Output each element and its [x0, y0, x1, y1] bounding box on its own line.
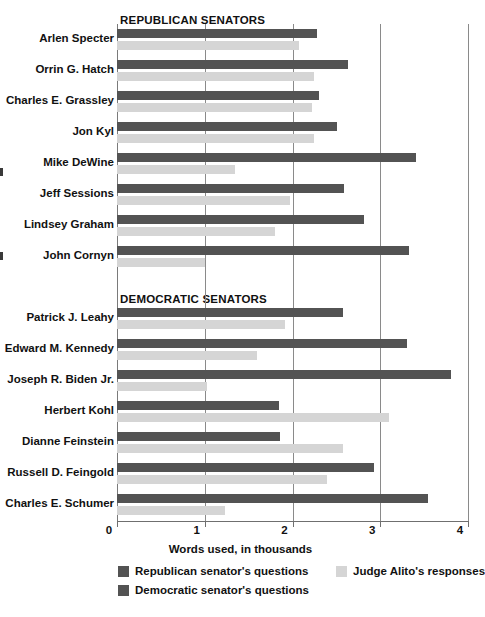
bar-row: Dianne Feinstein	[0, 429, 481, 460]
bar-alito-responses	[117, 382, 207, 391]
bar-row: Lindsey Graham	[0, 212, 481, 243]
x-tick-label-4: 4	[457, 524, 463, 536]
legend-label-republican: Republican senator's questions	[135, 565, 308, 577]
bar-senator-questions	[117, 432, 280, 441]
x-tick-mark-4	[468, 521, 469, 527]
legend-item-democratic-questions: Democratic senator's questions	[118, 584, 309, 596]
bar-row: Charles E. Schumer	[0, 491, 481, 522]
legend: Republican senator's questions Democrati…	[0, 563, 481, 613]
x-tick-mark-0	[117, 521, 118, 527]
bar-senator-questions	[117, 463, 374, 472]
bar-alito-responses	[117, 444, 343, 453]
bar-senator-questions	[117, 494, 428, 503]
bar-alito-responses	[117, 72, 314, 81]
bar-senator-questions	[117, 215, 364, 224]
senator-name-label: Arlen Specter	[39, 32, 114, 44]
x-tick-mark-2	[293, 521, 294, 527]
bar-row: Herbert Kohl	[0, 398, 481, 429]
bar-row: Charles E. Grassley	[0, 88, 481, 119]
x-tick-mark-3	[380, 521, 381, 527]
bar-row: Jon Kyl	[0, 119, 481, 150]
senator-name-label: Lindsey Graham	[24, 218, 114, 230]
senator-name-label: Joseph R. Biden Jr.	[7, 373, 114, 385]
senator-name-label: Russell D. Feingold	[7, 466, 114, 478]
bar-senator-questions	[117, 339, 407, 348]
senator-name-label: Jon Kyl	[72, 125, 114, 137]
x-tick-label-0: 0	[106, 524, 112, 536]
bar-row: Edward M. Kennedy	[0, 336, 481, 367]
bar-row: Jeff Sessions	[0, 181, 481, 212]
bar-senator-questions	[117, 153, 416, 162]
senator-name-label: Jeff Sessions	[40, 187, 114, 199]
senator-name-label: Edward M. Kennedy	[5, 342, 114, 354]
bar-row: Arlen Specter	[0, 26, 481, 57]
senator-name-label: John Cornyn	[43, 249, 114, 261]
bar-row: Patrick J. Leahy	[0, 305, 481, 336]
bar-alito-responses	[117, 227, 275, 236]
bar-alito-responses	[117, 103, 312, 112]
x-tick-label-2: 2	[281, 524, 287, 536]
bar-senator-questions	[117, 401, 279, 410]
bar-row: John Cornyn	[0, 243, 481, 274]
bar-alito-responses	[117, 258, 205, 267]
senator-name-label: Herbert Kohl	[44, 404, 114, 416]
legend-item-alito-responses: Judge Alito's responses	[336, 565, 485, 577]
bar-alito-responses	[117, 506, 225, 515]
legend-swatch-alito	[336, 566, 347, 577]
legend-label-alito: Judge Alito's responses	[353, 565, 485, 577]
bar-senator-questions	[117, 122, 337, 131]
x-tick-label-1: 1	[194, 524, 200, 536]
bar-alito-responses	[117, 413, 389, 422]
legend-swatch-democratic	[118, 585, 129, 596]
senator-name-label: Mike DeWine	[43, 156, 114, 168]
x-tick-mark-1	[205, 521, 206, 527]
bar-alito-responses	[117, 41, 299, 50]
senator-name-label: Dianne Feinstein	[22, 435, 114, 447]
x-axis-title: Words used, in thousands	[0, 543, 481, 555]
bar-alito-responses	[117, 165, 235, 174]
bar-senator-questions	[117, 184, 344, 193]
senator-name-label: Charles E. Grassley	[6, 94, 114, 106]
bar-alito-responses	[117, 475, 327, 484]
legend-item-republican-questions: Republican senator's questions	[118, 565, 308, 577]
bar-row: Orrin G. Hatch	[0, 57, 481, 88]
bar-senator-questions	[117, 308, 343, 317]
bar-senator-questions	[117, 246, 409, 255]
bar-alito-responses	[117, 320, 285, 329]
senator-name-label: Orrin G. Hatch	[35, 63, 114, 75]
bar-alito-responses	[117, 196, 290, 205]
bar-row: Joseph R. Biden Jr.	[0, 367, 481, 398]
bar-senator-questions	[117, 370, 451, 379]
legend-swatch-republican	[118, 566, 129, 577]
bar-alito-responses	[117, 351, 257, 360]
bar-senator-questions	[117, 60, 348, 69]
legend-label-democratic: Democratic senator's questions	[135, 584, 309, 596]
bar-row: Mike DeWine	[0, 150, 481, 181]
bar-senator-questions	[117, 91, 319, 100]
bar-senator-questions	[117, 29, 317, 38]
senator-name-label: Charles E. Schumer	[5, 497, 114, 509]
bar-alito-responses	[117, 134, 314, 143]
bar-row: Russell D. Feingold	[0, 460, 481, 491]
senator-name-label: Patrick J. Leahy	[26, 311, 114, 323]
x-tick-label-3: 3	[369, 524, 375, 536]
